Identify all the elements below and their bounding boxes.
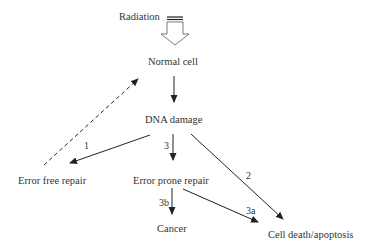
arrow-repair-feedback-dashed: [44, 79, 138, 165]
node-cell-death: Cell death/apoptosis: [268, 230, 353, 241]
node-error-free-repair: Error free repair: [18, 176, 86, 187]
edge-label-3a: 3a: [246, 206, 255, 216]
node-dna-damage: DNA damage: [145, 115, 202, 126]
arrow-dna-to-error-free: [70, 135, 150, 163]
node-normal-cell: Normal cell: [148, 57, 198, 68]
edge-label-3: 3: [164, 141, 169, 151]
node-cancer: Cancer: [157, 224, 187, 235]
edge-label-2: 2: [246, 171, 251, 181]
node-radiation: Radiation: [119, 12, 160, 23]
edge-label-1: 1: [84, 141, 89, 151]
edge-label-3b: 3b: [159, 198, 169, 208]
node-error-prone-repair: Error prone repair: [133, 176, 209, 187]
radiation-hollow-arrow-icon: [161, 17, 189, 45]
